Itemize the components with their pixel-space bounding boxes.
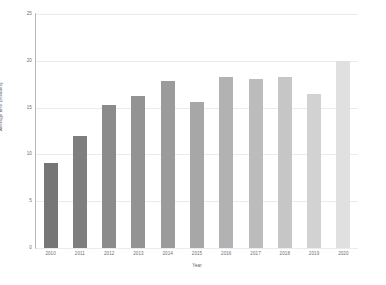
y-tick-label: 5 bbox=[2, 199, 32, 204]
bar-slot bbox=[65, 14, 94, 248]
y-tick-label: 25 bbox=[2, 12, 32, 17]
bar-slot bbox=[95, 14, 124, 248]
x-tick-label: 2013 bbox=[133, 251, 143, 256]
y-tick-label: 10 bbox=[2, 152, 32, 157]
y-tick-label: 0 bbox=[2, 246, 32, 251]
bar[interactable] bbox=[249, 79, 263, 248]
bar[interactable] bbox=[336, 61, 350, 248]
x-tick-label: 2016 bbox=[221, 251, 231, 256]
x-tick-label: 2017 bbox=[250, 251, 260, 256]
x-axis-title: Year bbox=[192, 263, 202, 268]
bar-slot bbox=[36, 14, 65, 248]
y-tick-label: 15 bbox=[2, 105, 32, 110]
bar-chart: 0510152025 Average time (minutes) Year 2… bbox=[0, 0, 386, 285]
bar[interactable] bbox=[161, 81, 175, 248]
bar[interactable] bbox=[102, 105, 116, 248]
x-tick-label: 2012 bbox=[104, 251, 114, 256]
x-tick-label: 2010 bbox=[45, 251, 55, 256]
bar[interactable] bbox=[131, 96, 145, 248]
bar[interactable] bbox=[190, 102, 204, 248]
y-axis-title: Average time (minutes) bbox=[0, 82, 3, 131]
x-tick-label: 2014 bbox=[163, 251, 173, 256]
bar[interactable] bbox=[307, 94, 321, 248]
bar-slot bbox=[299, 14, 328, 248]
x-tick-label: 2015 bbox=[192, 251, 202, 256]
bar-slot bbox=[153, 14, 182, 248]
bar[interactable] bbox=[73, 136, 87, 248]
bar-slot bbox=[182, 14, 211, 248]
y-axis-ticks: 0510152025 bbox=[0, 0, 32, 285]
bar-series bbox=[36, 14, 358, 248]
bar[interactable] bbox=[44, 163, 58, 248]
y-tick-label: 20 bbox=[2, 59, 32, 64]
bar-slot bbox=[124, 14, 153, 248]
x-tick-label: 2020 bbox=[338, 251, 348, 256]
x-tick-label: 2019 bbox=[309, 251, 319, 256]
x-tick-label: 2011 bbox=[75, 251, 85, 256]
bar-slot bbox=[212, 14, 241, 248]
gridline bbox=[36, 248, 358, 249]
bar-slot bbox=[241, 14, 270, 248]
bar[interactable] bbox=[219, 77, 233, 248]
bar-slot bbox=[329, 14, 358, 248]
x-tick-label: 2018 bbox=[280, 251, 290, 256]
bar[interactable] bbox=[278, 77, 292, 248]
bar-slot bbox=[270, 14, 299, 248]
